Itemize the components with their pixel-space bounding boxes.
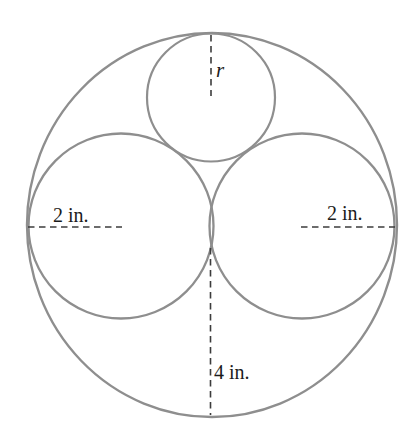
left-radius-label: 2 in. <box>53 204 89 226</box>
tangent-circles-diagram: r 2 in. 2 in. 4 in. <box>0 0 417 446</box>
geometry-figure: r 2 in. 2 in. 4 in. <box>0 0 417 446</box>
small-circle <box>147 34 275 162</box>
left-circle <box>29 134 214 319</box>
large-radius-label: 4 in. <box>214 361 250 383</box>
right-circle <box>210 134 395 319</box>
small-radius-label: r <box>216 58 225 82</box>
right-radius-label: 2 in. <box>327 202 363 224</box>
